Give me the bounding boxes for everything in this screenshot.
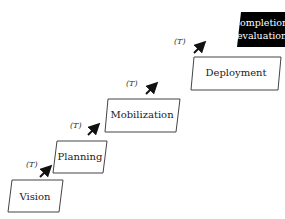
arrow-icon [146,86,154,94]
transition-label: (T) [174,37,186,46]
arrow-icon [194,45,202,53]
transition-1: (T) [26,160,48,177]
step-completion: Completion/ evaluation [233,12,285,47]
step-completion-label-line2: evaluation [237,30,285,41]
step-deployment-label: Deployment [205,67,266,78]
step-mobilization-label: Mobilization [110,109,174,120]
transition-3: (T) [126,79,154,94]
arrow-icon [88,127,96,135]
arrow-icon [40,169,48,177]
step-mobilization: Mobilization [105,99,180,132]
transition-2: (T) [70,121,96,135]
transition-label: (T) [26,160,38,169]
step-deployment: Deployment [191,57,281,90]
transition-label: (T) [70,121,82,130]
transition-4: (T) [174,37,202,53]
step-planning: Planning [53,141,107,173]
step-vision: Vision [8,180,63,212]
step-vision-label: Vision [18,191,51,202]
step-planning-label: Planning [58,151,103,162]
transition-label: (T) [126,79,138,88]
step-completion-label-line1: Completion/ [233,17,285,28]
staircase-diagram: Vision (T) Planning (T) Mobilization (T) [0,0,285,219]
